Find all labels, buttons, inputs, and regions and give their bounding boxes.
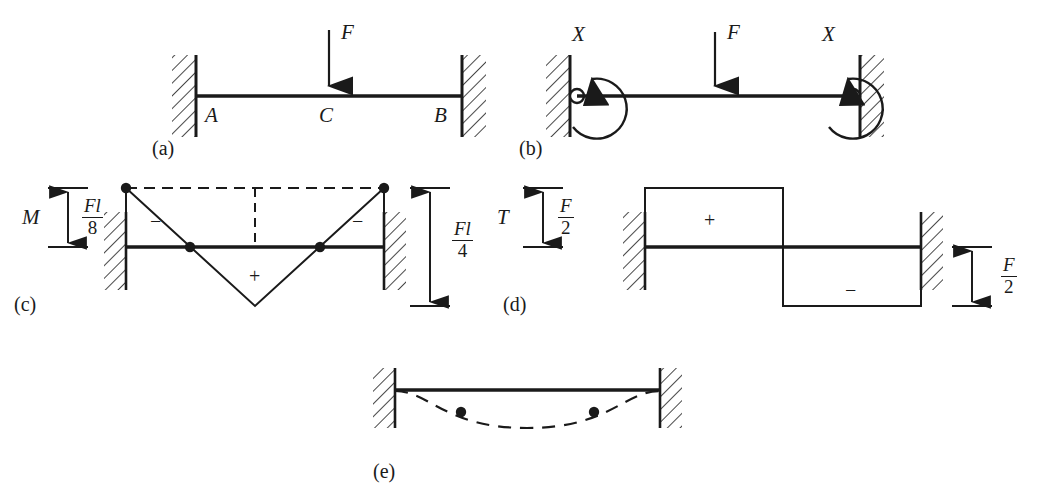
panel-label-e: (e)	[373, 461, 395, 481]
fixed-support-right-d	[921, 212, 943, 290]
fixed-support-left-c	[104, 212, 126, 290]
f2-left-numerator: F	[558, 196, 574, 217]
fixed-support-right-a	[462, 55, 486, 137]
fl8-denominator: 8	[82, 217, 103, 239]
shear-sign-right: −	[845, 280, 856, 300]
figure-drawing	[0, 0, 1051, 500]
fl8-numerator: Fl	[82, 196, 103, 217]
moment-inflection-left	[185, 242, 195, 252]
panel-d-drawing	[523, 188, 992, 306]
panel-b-drawing	[546, 32, 884, 139]
moment-arrow-left-b	[573, 79, 627, 139]
load-label-a: F	[341, 22, 354, 43]
dimension-label-f2-left: F 2	[558, 196, 574, 238]
moment-inflection-right	[315, 242, 325, 252]
fl4-denominator: 4	[452, 240, 473, 262]
node-label-c: C	[319, 105, 333, 126]
dimension-f2-right	[952, 247, 992, 306]
moment-quantity-label: M	[22, 207, 40, 228]
dimension-f2-left	[523, 188, 563, 247]
shear-sign-left: +	[704, 210, 715, 230]
node-label-b: B	[434, 105, 447, 126]
panel-c-drawing	[48, 183, 450, 306]
fl4-numerator: Fl	[452, 219, 473, 240]
dimension-label-f2-right: F 2	[1001, 255, 1017, 297]
moment-sign-mid: +	[249, 266, 260, 286]
panel-label-c: (c)	[14, 294, 36, 314]
deflection-inflection-left	[456, 407, 466, 417]
fixed-support-left-a	[172, 55, 196, 137]
figure-container: F A C B (a) X F X (b) M Fl 8 − + − Fl 4 …	[0, 0, 1051, 500]
redundant-label-right: X	[822, 24, 835, 45]
panel-label-d: (d)	[503, 294, 526, 314]
f2-left-denominator: 2	[558, 217, 574, 239]
dimension-label-fl8: Fl 8	[82, 196, 103, 238]
node-label-a: A	[205, 105, 218, 126]
moment-sign-left: −	[150, 211, 161, 231]
panel-label-a: (a)	[152, 138, 174, 158]
fixed-support-left-d	[623, 212, 645, 290]
fixed-support-left-e	[373, 368, 395, 428]
fixed-support-right-e	[660, 368, 682, 428]
moment-sign-right: −	[352, 211, 363, 231]
dimension-fl4	[410, 188, 450, 306]
deflection-inflection-right	[589, 407, 599, 417]
redundant-label-left: X	[572, 24, 585, 45]
deflection-curve	[395, 391, 660, 428]
shear-quantity-label: T	[497, 207, 509, 228]
moment-node-right-end	[379, 183, 389, 193]
f2-right-denominator: 2	[1001, 276, 1017, 298]
moment-node-left-end	[121, 183, 131, 193]
dimension-label-fl4: Fl 4	[452, 219, 473, 261]
panel-label-b: (b)	[519, 138, 542, 158]
panel-e-drawing	[373, 368, 682, 428]
fixed-support-right-c	[384, 212, 406, 290]
f2-right-numerator: F	[1001, 255, 1017, 276]
load-label-b: F	[727, 22, 740, 43]
